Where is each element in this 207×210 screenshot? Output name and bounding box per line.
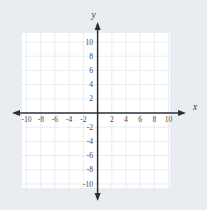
y-tick-label: -2	[87, 123, 94, 132]
x-tick-label: -6	[52, 115, 59, 124]
x-tick-label: 8	[153, 115, 157, 124]
x-tick-label: -8	[38, 115, 45, 124]
x-tick-label: 4	[124, 115, 128, 124]
cartesian-plane-svg: -10 -8 -6 -4 -2 2 4 6 8 10 10 8 6 4 2 -2…	[0, 0, 207, 210]
x-tick-label: -4	[66, 115, 73, 124]
x-tick-label: -10	[22, 115, 32, 124]
y-tick-label: 2	[89, 94, 93, 103]
y-tick-label: 10	[85, 38, 93, 47]
x-axis-label: x	[192, 102, 198, 112]
y-tick-label: -4	[87, 137, 94, 146]
coordinate-grid-figure: -10 -8 -6 -4 -2 2 4 6 8 10 10 8 6 4 2 -2…	[0, 0, 207, 210]
y-tick-label: 4	[89, 80, 93, 89]
x-tick-label: 10	[165, 115, 173, 124]
x-tick-label: 6	[138, 115, 142, 124]
y-tick-label: -8	[87, 165, 94, 174]
x-tick-label: 2	[110, 115, 114, 124]
y-tick-label: 8	[89, 52, 93, 61]
y-tick-label: 6	[89, 66, 93, 75]
y-tick-label: -10	[83, 180, 93, 189]
y-axis-label: y	[90, 10, 96, 20]
y-tick-label: -6	[87, 151, 94, 160]
